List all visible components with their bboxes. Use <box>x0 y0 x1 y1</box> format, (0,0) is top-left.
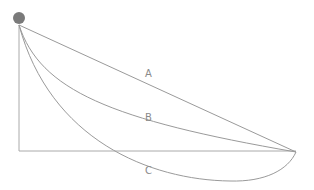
label-a: A <box>145 68 152 79</box>
label-c: C <box>145 165 152 176</box>
path-c-cycloid <box>19 25 296 181</box>
path-a-line <box>19 25 296 152</box>
label-b: B <box>145 112 152 123</box>
brachistochrone-diagram: A B C <box>0 0 314 190</box>
ball <box>13 12 25 24</box>
